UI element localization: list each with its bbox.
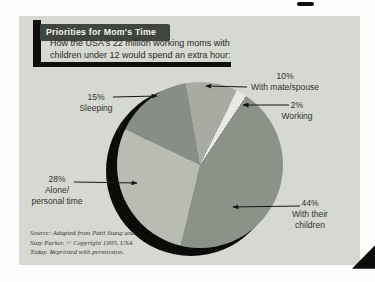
slice-pct-working: 2% — [267, 100, 327, 111]
slice-label-working: 2% Working — [267, 100, 327, 122]
accent-bar-horizontal — [33, 62, 231, 67]
scanned-figure-page: Priorities for Mom's Time How the USA's … — [0, 0, 375, 282]
figure-subtitle: How the USA's 22 million working moms wi… — [50, 38, 250, 61]
slice-label-children: 44% With their children — [279, 198, 341, 231]
slice-pct-mate-spouse: 10% — [243, 71, 327, 82]
source-note: Source: Adapted from Patti Stang and Suz… — [30, 228, 140, 257]
slice-name-alone: Alone/ personal time — [24, 185, 90, 207]
slice-name-mate-spouse: With mate/spouse — [243, 82, 327, 93]
slice-label-alone: 28% Alone/ personal time — [24, 174, 90, 207]
slice-pct-alone: 28% — [24, 174, 90, 185]
slice-label-mate-spouse: 10% With mate/spouse — [243, 71, 327, 93]
page-corner-dash — [297, 2, 314, 6]
slice-label-sleeping: 15% Sleeping — [71, 92, 121, 114]
pie — [117, 82, 283, 248]
slice-pct-children: 44% — [279, 198, 341, 209]
slice-name-working: Working — [267, 111, 327, 122]
slice-name-children: With their children — [279, 209, 341, 231]
slice-name-sleeping: Sleeping — [71, 103, 121, 114]
slice-pct-sleeping: 15% — [71, 92, 121, 103]
